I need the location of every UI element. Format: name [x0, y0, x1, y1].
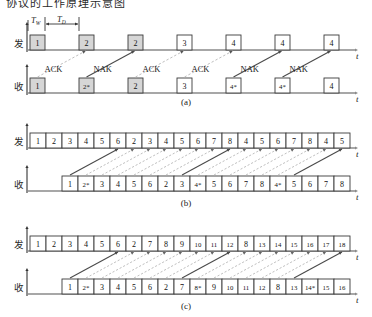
panel-b-feedback-arrowhead [179, 149, 182, 152]
panel-a-response-label: NAK [241, 64, 260, 74]
panel-a-sender-frame-label: 1 [36, 39, 40, 48]
panel-b-receiver-frame-label: 3 [180, 180, 184, 189]
panel-a-response-label: NAK [94, 64, 113, 74]
panel-c-receiver-label: 收 [14, 282, 24, 293]
panel-b-receiver-frame-label: 1 [68, 180, 72, 189]
panel-c-feedback-arrowhead [323, 252, 326, 255]
panel-a-sender-frame-label: 4 [232, 39, 236, 48]
panel-b-feedback-arrowhead [275, 149, 278, 152]
panel-c-sender-frame-label: 7 [148, 240, 152, 249]
panel-c-receiver-frame-label: 2 [164, 283, 168, 292]
panel-a-response-arrowhead [229, 51, 232, 54]
panel-b-sender-frame-label: 5 [260, 137, 264, 146]
panel-b-receiver-axis-label: t [356, 192, 359, 202]
panel-c-sender-frame-label: 12 [227, 241, 234, 248]
panel-b-sender-frame-label: 2 [132, 137, 136, 146]
panel-c-caption: (c) [181, 301, 191, 311]
panel-a-response-label: ACK [45, 64, 64, 74]
panel-b-sender-frame-label: 1 [36, 137, 40, 146]
panel-a-receiver-frame-label: 2 [134, 82, 138, 91]
panel-c-receiver-frame-label: 5 [132, 283, 136, 292]
panel-b-feedback-arrowhead [195, 149, 198, 152]
panel-c-receiver-frame-label: 10 [227, 284, 234, 291]
panel-b-sender-frame-label: 7 [212, 137, 216, 146]
panel-b-sender-frame-label: 5 [100, 137, 104, 146]
panel-b-sender-frame-label: 4 [164, 137, 168, 146]
panel-a-sender-label: 发 [14, 38, 24, 49]
panel-b-feedback-arrowhead [163, 149, 166, 152]
panel-b-sender-frame-label: 6 [116, 137, 120, 146]
panel-b-sender-axis-label: t [356, 149, 359, 159]
panel-b-sender-frame-label: 3 [68, 137, 72, 146]
panel-b-sender-frame-label: 6 [196, 137, 200, 146]
panel-b-sender-frame-label: 4 [244, 137, 248, 146]
panel-a-sender-frame-label: 2 [85, 39, 89, 48]
panel-b-receiver-frame-label: 8 [340, 180, 344, 189]
panel-a-receiver-axis-label: t [356, 94, 359, 104]
panel-b-receiver-label: 收 [14, 179, 24, 190]
panel-a-response-arrowhead [180, 51, 183, 54]
panel-b-sender-frame-label: 3 [148, 137, 152, 146]
panel-b-receiver-frame-label: 7 [244, 180, 248, 189]
panel-b-receiver-frame-label: 6 [228, 180, 232, 189]
panel-b-feedback-arrowhead [259, 149, 262, 152]
panel-a-receiver-frame-label: 2* [83, 83, 90, 90]
panel-c-sender-frame-label: 17 [323, 241, 330, 248]
panel-b-receiver-frame-label: 3 [100, 180, 104, 189]
panel-c-sender-frame-label: 5 [100, 240, 104, 249]
panel-b-receiver-frame-label: 2* [83, 181, 90, 188]
panel-c-receiver-frame-label: 15 [323, 284, 330, 291]
panel-b-receiver-frame-label: 8 [260, 180, 264, 189]
panel-b-receiver-frame-label: 5 [212, 180, 216, 189]
panel-c-feedback-arrowhead [275, 252, 278, 255]
panel-c-sender-frame-label: 15 [291, 241, 298, 248]
panel-b-sender-frame-label: 5 [180, 137, 184, 146]
panel-b-feedback-arrowhead [243, 149, 246, 152]
panel-c-receiver-frame-label: 9 [212, 283, 216, 292]
panel-a-caption: (a) [181, 97, 191, 107]
panel-c-sender-axis-label: t [356, 252, 359, 262]
protocol-timing-figure: 协议的工作原理示意图 tt发收122344412*234*4*4ACKNAKAC… [0, 0, 372, 317]
panel-c-feedback-arrowhead [131, 252, 134, 255]
tw-label: TW [31, 15, 41, 26]
panel-c-receiver-frame-label: 14* [305, 284, 316, 291]
panel-a-response-label: ACK [192, 64, 211, 74]
panel-c-sender-frame-label: 1 [36, 240, 40, 249]
panel-c-sender-frame-label: 2 [52, 240, 56, 249]
panel-a-receiver-frame-label: 4* [279, 83, 286, 90]
panel-a-sender-frame-label: 4 [330, 39, 334, 48]
panel-b-sender-frame-label: 4 [324, 137, 328, 146]
panel-c: tt发收1234562789101112813141516171812*3456… [14, 226, 359, 311]
panel-c-feedback-arrowhead [243, 252, 246, 255]
panel-b-caption: (b) [181, 198, 192, 208]
panel-c-receiver-frame-label: 12 [259, 284, 266, 291]
panel-c-feedback-arrowhead [163, 252, 166, 255]
panel-c-sender-frame-label: 16 [307, 241, 314, 248]
panel-c-feedback-arrowhead [195, 252, 198, 255]
panel-c-receiver-frame-label: 2* [83, 284, 90, 291]
panel-b-receiver-frame-label: 7 [324, 180, 328, 189]
panel-b-feedback-arrowhead [307, 149, 310, 152]
panel-c-feedback-arrowhead [307, 252, 310, 255]
panel-c-sender-frame-label: 6 [116, 240, 120, 249]
panel-b-sender-label: 发 [14, 136, 24, 147]
panel-c-sender-frame-label: 2 [132, 240, 136, 249]
panel-b-receiver-frame-label: 5 [132, 180, 136, 189]
panel-c-feedback-arrowhead [259, 252, 262, 255]
td-label: TD [57, 14, 66, 25]
panel-c-sender-frame-label: 14 [275, 241, 282, 248]
panel-c-feedback-arrowhead [147, 252, 150, 255]
panel-a-response-label: NAK [290, 64, 309, 74]
panel-c-receiver-frame-label: 13 [291, 284, 298, 291]
panel-c-receiver-frame-label: 16 [339, 284, 346, 291]
panel-a-receiver-label: 收 [14, 81, 24, 92]
panel-c-sender-frame-label: 3 [68, 240, 72, 249]
panel-c-receiver-frame-label: 1 [68, 283, 72, 292]
panel-b-sender-frame-label: 7 [292, 137, 296, 146]
panel-a-sender-frame-label: 3 [183, 39, 187, 48]
panel-a-response-arrowhead [82, 51, 85, 54]
panel-c-sender-label: 发 [14, 239, 24, 250]
panel-b-feedback-arrowhead [147, 149, 150, 152]
panel-c-sender-frame-label: 4 [84, 240, 88, 249]
panel-b-receiver-frame-label: 5 [292, 180, 296, 189]
